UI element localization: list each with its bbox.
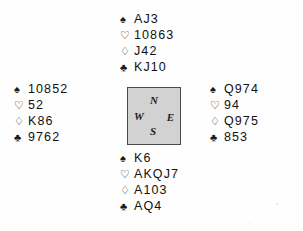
hand-east-diamonds: Q975 [224,113,259,129]
heart-icon: ♡ [120,166,134,182]
hand-west-clubs: 9762 [28,129,60,145]
hand-south-clubs-row: ♣ AQ4 [120,198,179,214]
hand-north-hearts: 10863 [134,27,174,43]
spade-icon: ♠ [14,81,28,97]
club-icon: ♣ [120,198,134,214]
scan-speckle [249,222,251,223]
hand-south-hearts: AKQJ7 [134,166,179,182]
hand-west-spades: 10852 [28,81,68,97]
heart-icon: ♡ [210,97,224,113]
hand-east-spades: Q974 [224,81,259,97]
compass-label-west: W [134,111,144,122]
hand-east-clubs-row: ♣ 853 [210,129,259,145]
hand-north-hearts-row: ♡ 10863 [120,27,174,43]
hand-north-clubs-row: ♣ KJ10 [120,59,174,75]
heart-icon: ♡ [14,97,28,113]
hand-west-diamonds-row: ♢ K86 [14,113,68,129]
diamond-icon: ♢ [120,182,134,198]
hand-east: ♠ Q974 ♡ 94 ♢ Q975 ♣ 853 [210,81,259,145]
compass-label-north: N [150,95,158,106]
hand-west-spades-row: ♠ 10852 [14,81,68,97]
hand-north-diamonds-row: ♢ J42 [120,43,174,59]
spade-icon: ♠ [210,81,224,97]
hand-west-hearts: 52 [28,97,44,113]
hand-south-hearts-row: ♡ AKQJ7 [120,166,179,182]
hand-north-spades-row: ♠ AJ3 [120,11,174,27]
spade-icon: ♠ [120,150,134,166]
hand-south-spades: K6 [134,150,152,166]
hand-east-hearts-row: ♡ 94 [210,97,259,113]
hand-south-diamonds-row: ♢ A103 [120,182,179,198]
diamond-icon: ♢ [120,43,134,59]
spade-icon: ♠ [120,11,134,27]
hand-south-clubs: AQ4 [134,198,162,214]
compass-label-east: E [167,112,174,123]
club-icon: ♣ [14,129,28,145]
diamond-icon: ♢ [14,113,28,129]
hand-east-hearts: 94 [224,97,240,113]
compass-box: N W E S [127,87,181,145]
hand-north-diamonds: J42 [134,43,157,59]
hand-west-diamonds: K86 [28,113,54,129]
hand-west-hearts-row: ♡ 52 [14,97,68,113]
hand-north: ♠ AJ3 ♡ 10863 ♢ J42 ♣ KJ10 [120,11,174,75]
bridge-deal-diagram: ♠ AJ3 ♡ 10863 ♢ J42 ♣ KJ10 ♠ 10852 ♡ 52 … [0,0,303,231]
diamond-icon: ♢ [210,113,224,129]
hand-south: ♠ K6 ♡ AKQJ7 ♢ A103 ♣ AQ4 [120,150,179,214]
hand-north-spades: AJ3 [134,11,159,27]
club-icon: ♣ [210,129,224,145]
hand-east-diamonds-row: ♢ Q975 [210,113,259,129]
heart-icon: ♡ [120,27,134,43]
hand-south-spades-row: ♠ K6 [120,150,179,166]
hand-west: ♠ 10852 ♡ 52 ♢ K86 ♣ 9762 [14,81,68,145]
hand-east-clubs: 853 [224,129,248,145]
compass-label-south: S [150,126,156,137]
hand-north-clubs: KJ10 [134,59,167,75]
scan-speckle [276,203,278,205]
hand-south-diamonds: A103 [134,182,168,198]
hand-east-spades-row: ♠ Q974 [210,81,259,97]
hand-west-clubs-row: ♣ 9762 [14,129,68,145]
club-icon: ♣ [120,59,134,75]
